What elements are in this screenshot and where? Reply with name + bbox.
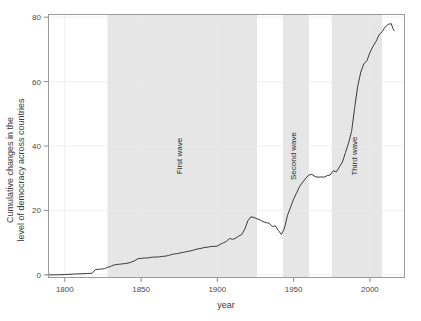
y-axis-title-line1: Cumulative changes in the: [5, 117, 15, 223]
band-label-first-wave: First wave: [175, 137, 184, 174]
x-tick-label-1850: 1850: [132, 285, 150, 294]
x-tick-label-2000: 2000: [361, 285, 379, 294]
x-axis: 1800 1850 1900 1950 2000: [56, 278, 379, 294]
x-axis-title: year: [217, 300, 235, 310]
y-tick-label-40: 40: [32, 142, 41, 151]
y-tick-label-60: 60: [32, 78, 41, 87]
band-label-second-wave: Second wave: [289, 131, 298, 180]
y-tick-label-20: 20: [32, 206, 41, 215]
x-tick-label-1950: 1950: [285, 285, 303, 294]
y-axis-title-line2: level of democracy across countries: [16, 98, 26, 242]
band-label-third-wave: Third wave: [350, 136, 359, 176]
y-axis: 80 60 40 20 0: [32, 13, 48, 280]
y-tick-label-0: 0: [37, 271, 42, 280]
x-tick-label-1800: 1800: [56, 285, 74, 294]
democracy-waves-chart: First wave Second wave Third wave 80 60 …: [0, 0, 421, 321]
y-tick-label-80: 80: [32, 13, 41, 22]
x-tick-label-1900: 1900: [208, 285, 226, 294]
